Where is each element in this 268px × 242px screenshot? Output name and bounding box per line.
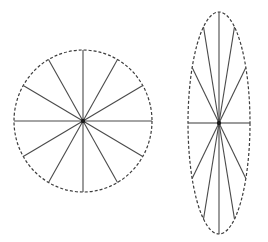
circle-spoke [23, 86, 83, 122]
shapes-layer [14, 12, 250, 234]
circle-center-dot [81, 119, 85, 123]
figure-canvas [0, 0, 268, 242]
circle-spoke [83, 121, 143, 157]
circle-spoke [83, 60, 118, 121]
ellipse-spoke [204, 123, 220, 219]
ellipse-center-dot [217, 121, 221, 125]
diagram-svg [0, 0, 268, 242]
circle-spoke [83, 121, 118, 182]
ellipse-spoke [219, 27, 235, 123]
ellipse-spoke [219, 123, 235, 219]
shape-circle [14, 50, 152, 192]
shape-ellipse [188, 12, 250, 234]
circle-spoke [49, 60, 84, 121]
ellipse-spoke [204, 27, 220, 123]
circle-spoke [83, 86, 143, 122]
circle-spoke [49, 121, 84, 182]
circle-spoke [23, 121, 83, 157]
